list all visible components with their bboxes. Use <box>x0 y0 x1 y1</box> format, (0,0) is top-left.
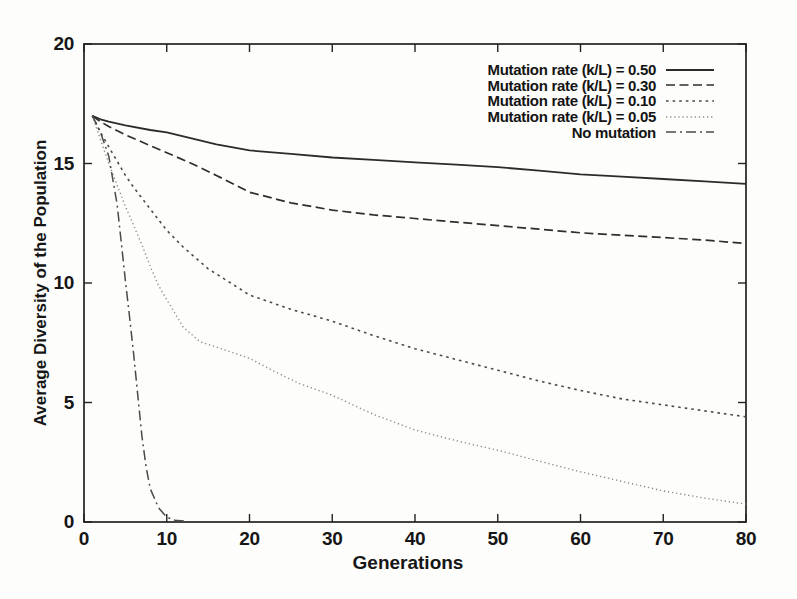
x-axis-title: Generations <box>353 552 464 574</box>
legend-label: Mutation rate (k/L) = 0.50 <box>488 61 657 78</box>
figure-page: Average Diversity of the Population Gene… <box>0 0 797 599</box>
legend-label: Mutation rate (k/L) = 0.10 <box>488 92 657 109</box>
legend-line-sample <box>666 77 714 93</box>
legend-line-sample <box>666 93 714 109</box>
legend: Mutation rate (k/L) = 0.50 Mutation rate… <box>488 62 715 140</box>
legend-entry: Mutation rate (k/L) = 0.10 <box>488 93 715 109</box>
legend-line-sample <box>666 124 714 140</box>
y-tick-label: 0 <box>22 511 74 533</box>
y-tick-label: 20 <box>22 33 74 55</box>
curve-dash-dot <box>92 116 187 522</box>
legend-label: Mutation rate (k/L) = 0.05 <box>488 108 657 125</box>
curve-fine-dotted <box>92 116 746 504</box>
x-tick-label: 60 <box>546 528 616 550</box>
x-tick-label: 40 <box>380 528 450 550</box>
y-tick-label: 10 <box>22 272 74 294</box>
y-tick-label: 15 <box>22 153 74 175</box>
x-tick-label: 70 <box>628 528 698 550</box>
legend-line-sample <box>666 62 714 78</box>
legend-label: Mutation rate (k/L) = 0.30 <box>488 77 657 94</box>
legend-label: No mutation <box>572 124 656 141</box>
legend-entry: No mutation <box>488 124 715 140</box>
legend-line-sample <box>666 109 714 125</box>
x-tick-label: 10 <box>132 528 202 550</box>
legend-entry: Mutation rate (k/L) = 0.50 <box>488 62 715 78</box>
x-tick-label: 20 <box>215 528 285 550</box>
x-tick-label: 30 <box>297 528 367 550</box>
x-tick-label: 80 <box>711 528 781 550</box>
legend-entry: Mutation rate (k/L) = 0.30 <box>488 78 715 94</box>
curve-dotted <box>92 116 746 417</box>
x-tick-label: 50 <box>463 528 533 550</box>
legend-entry: Mutation rate (k/L) = 0.05 <box>488 109 715 125</box>
y-tick-label: 5 <box>22 392 74 414</box>
